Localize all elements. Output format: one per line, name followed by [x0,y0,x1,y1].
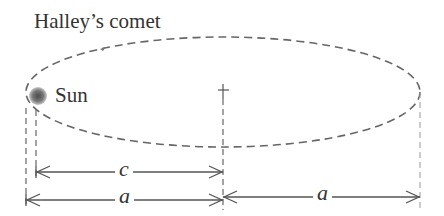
semi-major-axis-left-label: a [115,186,134,206]
focal-distance-label: c [115,159,133,179]
diagram-title: Halley’s comet [34,9,161,34]
sun-icon [29,87,47,105]
semi-major-axis-right-label: a [313,183,332,203]
halleys-comet-orbit-diagram: Halley’s comet Sun c a a [0,0,444,216]
sun-label: Sun [55,83,88,108]
center-marker-icon [218,84,229,99]
